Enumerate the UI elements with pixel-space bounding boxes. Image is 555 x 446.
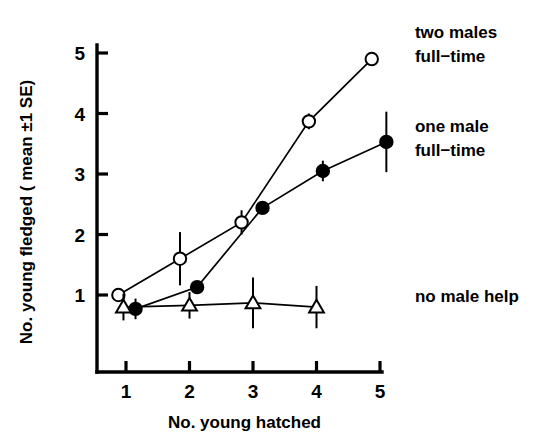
series-layer — [112, 52, 392, 328]
marker-filled-circle-1-4 — [380, 136, 392, 148]
annotation-two-males-line1: two males — [415, 23, 497, 42]
y-tick-label-2: 2 — [74, 225, 85, 246]
annotation-no-help: no male help — [415, 287, 519, 306]
x-tick-label-4: 4 — [311, 381, 322, 402]
annotation-two-males: two malesfull−time — [415, 23, 497, 66]
marker-open-circle-0-4 — [366, 53, 378, 65]
marker-filled-circle-1-1 — [191, 281, 203, 293]
marker-open-circle-0-1 — [174, 253, 186, 265]
chart-figure: 12345 12345 No. young hatched No. young … — [0, 0, 555, 446]
y-tick-label-1: 1 — [74, 285, 85, 306]
annotation-layer: two malesfull−timeone malefull−timeno ma… — [415, 23, 519, 306]
annotation-one-male: one malefull−time — [415, 117, 489, 160]
x-axis-title: No. young hatched — [168, 413, 321, 432]
x-tick-label-5: 5 — [375, 381, 386, 402]
marker-open-circle-0-3 — [303, 115, 315, 127]
y-tick-label-3: 3 — [74, 164, 85, 185]
y-axis-tick-labels: 12345 — [74, 43, 85, 306]
marker-open-triangle-2-2 — [246, 295, 261, 308]
series-line-1 — [136, 142, 387, 309]
annotation-no-help-line1: no male help — [415, 287, 519, 306]
series-1 — [129, 112, 392, 320]
y-tick-label-5: 5 — [74, 43, 85, 64]
series-line-0 — [118, 59, 371, 295]
annotation-one-male-line1: one male — [415, 117, 489, 136]
y-tick-label-4: 4 — [74, 104, 85, 125]
x-axis-tick-labels: 12345 — [121, 381, 386, 402]
marker-filled-circle-1-3 — [317, 165, 329, 177]
x-tick-label-1: 1 — [121, 381, 132, 402]
annotation-one-male-line2: full−time — [415, 141, 485, 160]
x-tick-label-2: 2 — [184, 381, 195, 402]
series-0 — [112, 52, 378, 301]
x-tick-label-3: 3 — [248, 381, 259, 402]
axes-group: 12345 12345 — [74, 43, 385, 402]
chart-canvas: 12345 12345 No. young hatched No. young … — [0, 0, 555, 446]
series-2 — [116, 277, 324, 328]
marker-filled-circle-1-2 — [256, 202, 268, 214]
y-axis-title: No. young fledged ( mean ±1 SE) — [17, 80, 36, 344]
annotation-two-males-line2: full−time — [415, 47, 485, 66]
